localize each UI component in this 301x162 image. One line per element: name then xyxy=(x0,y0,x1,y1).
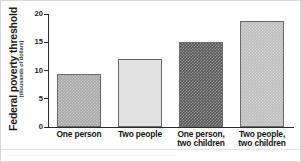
y-axis-tick xyxy=(44,42,49,43)
x-axis-label-line1: One person xyxy=(56,129,101,139)
x-axis-label-line2: two children xyxy=(170,139,232,148)
y-axis-tick xyxy=(44,127,49,128)
x-axis-category-label: Two people xyxy=(109,130,171,139)
x-axis-label-line1: Two people xyxy=(118,129,162,139)
y-axis-title-main: Federal poverty threshold xyxy=(8,7,19,131)
y-axis-tick-label: 15 xyxy=(22,38,43,46)
bar xyxy=(179,42,223,127)
plot-area xyxy=(48,14,292,127)
bar-chart-figure: Federal poverty threshold (thousands of … xyxy=(0,0,301,162)
x-axis-category-label: Two people,two children xyxy=(231,130,293,148)
y-axis-tick-label: 10 xyxy=(22,67,43,75)
y-axis-tick-label: 0 xyxy=(22,123,43,131)
figure-caption: ········································… xyxy=(7,150,294,161)
y-axis-tick-label: 5 xyxy=(22,95,43,103)
y-axis-tick xyxy=(44,70,49,71)
bar xyxy=(240,21,284,127)
y-axis-tick-label: 20 xyxy=(22,10,43,18)
bar xyxy=(118,59,162,127)
bar xyxy=(57,74,101,127)
x-axis-category-label: One person xyxy=(48,130,110,139)
x-axis-label-line2: two children xyxy=(231,139,293,148)
x-axis-category-label: One person,two children xyxy=(170,130,232,148)
x-axis-line xyxy=(46,127,294,128)
y-axis-tick xyxy=(44,98,49,99)
y-axis-line xyxy=(48,14,49,127)
y-axis-tick xyxy=(44,14,49,15)
